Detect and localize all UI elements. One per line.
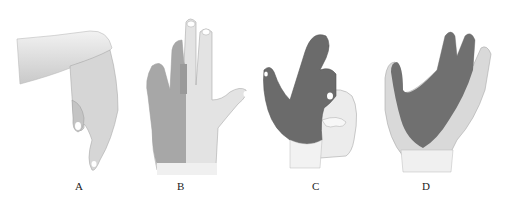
panel-label-b: B [177,180,184,192]
panel-label-c: C [312,180,319,192]
panel-b: B [130,0,260,201]
hand-a-illustration [0,0,130,201]
hand-b-illustration [130,0,260,201]
panel-label-d: D [422,180,430,192]
hand-c-illustration [250,0,380,201]
panel-a: A [0,0,130,201]
panel-label-a: A [75,180,83,192]
panel-c: C [250,0,380,201]
hand-d-illustration [377,0,507,201]
panel-d: D [377,0,507,201]
thumbnail-icon [75,122,81,130]
